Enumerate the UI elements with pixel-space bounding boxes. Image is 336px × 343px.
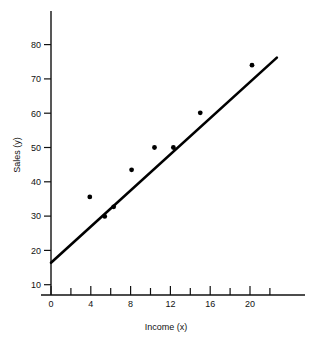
y-tick-label: 60 [31, 109, 41, 119]
x-axis-tick-labels: 048121620 [48, 299, 255, 309]
plot-canvas: 1020304050607080 048121620 Income (x) Sa… [0, 0, 336, 343]
x-tick-label: 0 [48, 299, 53, 309]
y-axis-tick-labels: 1020304050607080 [31, 40, 41, 290]
data-point [129, 167, 134, 172]
y-tick-label: 70 [31, 74, 41, 84]
data-point [171, 145, 176, 150]
x-tick-label: 12 [165, 299, 175, 309]
y-axis-ticks [44, 45, 51, 285]
data-point [87, 194, 92, 199]
x-tick-label: 20 [245, 299, 255, 309]
x-tick-label: 4 [88, 299, 93, 309]
data-point [111, 204, 116, 209]
x-tick-label: 8 [128, 299, 133, 309]
data-point-group [87, 63, 254, 219]
data-point [250, 63, 255, 68]
regression-line [51, 58, 277, 263]
x-tick-label: 16 [205, 299, 215, 309]
data-point [198, 110, 203, 115]
y-tick-label: 20 [31, 246, 41, 256]
data-point [102, 214, 107, 219]
y-tick-label: 30 [31, 211, 41, 221]
y-axis-title: Sales (y) [12, 137, 22, 173]
y-tick-label: 40 [31, 177, 41, 187]
y-tick-label: 10 [31, 280, 41, 290]
y-tick-label: 50 [31, 143, 41, 153]
data-point [152, 145, 157, 150]
scatter-plot-figure: 1020304050607080 048121620 Income (x) Sa… [0, 0, 336, 343]
x-axis-title: Income (x) [145, 322, 188, 332]
y-tick-label: 80 [31, 40, 41, 50]
